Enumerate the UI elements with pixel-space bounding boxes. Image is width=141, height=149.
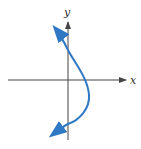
x-axis-label: x [130, 74, 137, 87]
curve [52, 50, 89, 135]
graph-canvas: x y [0, 0, 141, 149]
y-axis-label: y [63, 6, 71, 19]
curve-top-segment [55, 28, 68, 50]
